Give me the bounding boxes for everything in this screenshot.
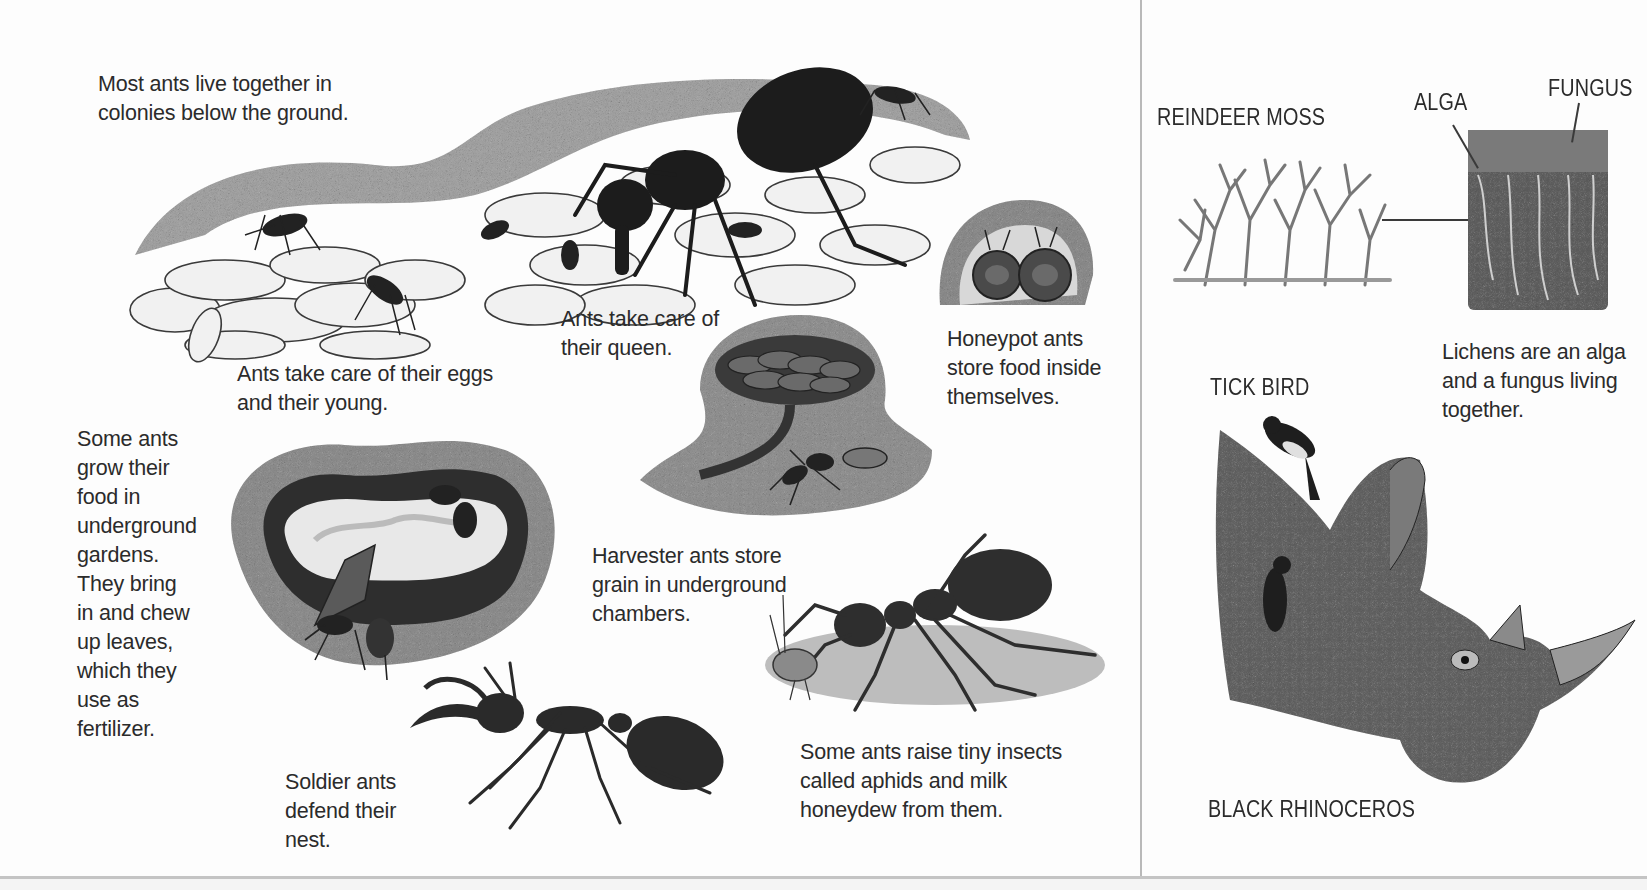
caption-eggs-and-young: Ants take care of their eggs and their y…: [237, 360, 493, 418]
connector-line: [1382, 219, 1472, 221]
label-fungus: FUNGUS: [1548, 75, 1633, 101]
fungus-garden-illustration: [215, 420, 565, 680]
ant-milking-aphid-illustration: [755, 535, 1105, 720]
caption-honeypot: Honeypot ants store food inside themselv…: [947, 325, 1101, 412]
page-gutter-divider: [1140, 0, 1142, 880]
caption-lichens: Lichens are an alga and a fungus living …: [1442, 338, 1626, 425]
label-reindeer-moss: REINDEER MOSS: [1157, 104, 1325, 130]
black-rhinoceros-with-tick-birds-illustration: [1190, 410, 1640, 795]
reindeer-moss-illustration: [1175, 150, 1390, 290]
caption-queen: Ants take care of their queen.: [561, 305, 719, 363]
caption-harvester: Harvester ants store grain in undergroun…: [592, 542, 786, 629]
soldier-ant-illustration: [410, 668, 745, 833]
caption-soldier: Soldier ants defend their nest.: [285, 768, 396, 855]
label-tick-bird: TICK BIRD: [1210, 374, 1309, 400]
honeypot-ants-illustration: [935, 195, 1095, 310]
label-alga: ALGA: [1414, 89, 1467, 115]
label-black-rhinoceros: BLACK RHINOCEROS: [1208, 796, 1415, 822]
caption-fungus-gardens: Some ants grow their food in underground…: [77, 425, 197, 744]
lichen-cross-section-illustration: [1468, 130, 1608, 310]
scan-background: [0, 879, 1647, 890]
caption-colonies: Most ants live together in colonies belo…: [98, 70, 349, 128]
caption-aphids: Some ants raise tiny insects called aphi…: [800, 738, 1062, 825]
